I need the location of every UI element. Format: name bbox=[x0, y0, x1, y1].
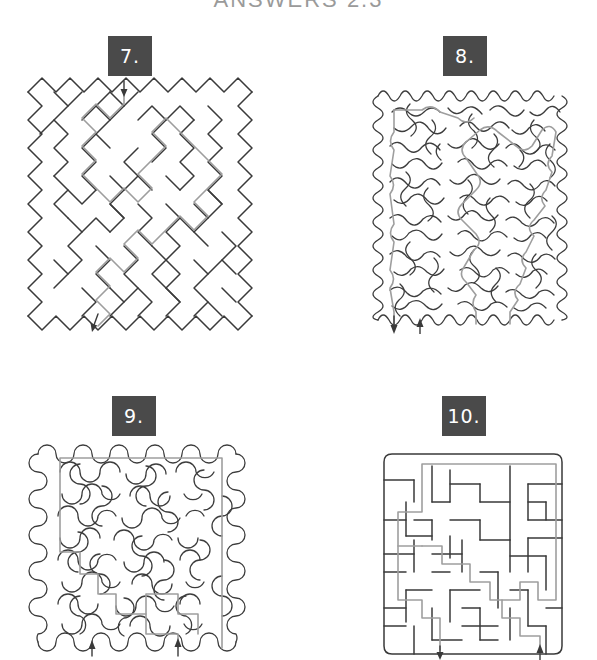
maze-8-exit-arrow bbox=[391, 316, 398, 334]
maze-9-walls bbox=[29, 445, 245, 651]
puzzle-number-10: 10. bbox=[442, 396, 486, 436]
maze-10 bbox=[370, 440, 582, 660]
puzzle-number-7: 7. bbox=[108, 36, 152, 76]
maze-9-exit-arrow bbox=[89, 640, 96, 656]
answers-page: ANSWERS 2.3 7. bbox=[0, 0, 597, 660]
page-title: ANSWERS 2.3 bbox=[0, 0, 597, 13]
maze-10-walls bbox=[384, 454, 562, 654]
maze-10-exit-arrow bbox=[437, 646, 444, 660]
maze-7-walls bbox=[28, 78, 252, 330]
maze-9-entrance-arrow bbox=[175, 638, 182, 656]
maze-9 bbox=[26, 436, 254, 660]
maze-7 bbox=[14, 76, 254, 338]
maze-8 bbox=[370, 84, 570, 334]
puzzle-number-8: 8. bbox=[443, 36, 487, 76]
maze-7-solution-path bbox=[82, 94, 222, 326]
maze-10-entrance-arrow bbox=[537, 644, 544, 660]
puzzle-number-9: 9. bbox=[112, 396, 156, 436]
maze-8-solution-path bbox=[390, 107, 556, 324]
maze-8-walls bbox=[373, 91, 567, 325]
